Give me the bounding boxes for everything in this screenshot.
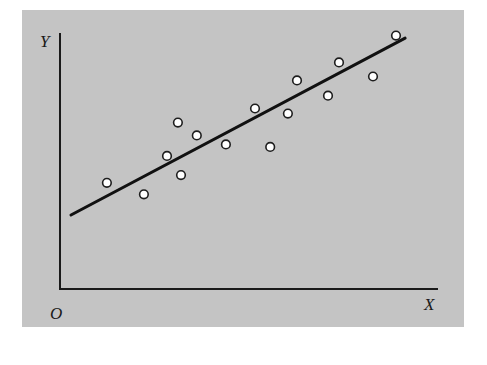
data-point bbox=[103, 179, 112, 188]
data-point bbox=[163, 152, 172, 161]
origin-label: O bbox=[50, 304, 62, 323]
data-point bbox=[222, 140, 231, 149]
data-point bbox=[293, 76, 302, 85]
scatter-plot-with-regression-line: Y X O bbox=[0, 0, 487, 365]
data-point bbox=[324, 91, 333, 100]
data-point bbox=[193, 131, 202, 140]
data-point bbox=[369, 72, 378, 81]
data-point bbox=[140, 190, 149, 199]
chart-background-panel bbox=[22, 10, 464, 327]
y-axis-label: Y bbox=[40, 32, 51, 51]
data-point bbox=[251, 104, 260, 113]
data-point bbox=[177, 171, 186, 180]
x-axis-label: X bbox=[423, 295, 435, 314]
data-point bbox=[284, 109, 293, 118]
data-point bbox=[266, 143, 275, 152]
data-point bbox=[174, 118, 183, 127]
data-point bbox=[392, 31, 401, 40]
data-point bbox=[335, 58, 344, 67]
